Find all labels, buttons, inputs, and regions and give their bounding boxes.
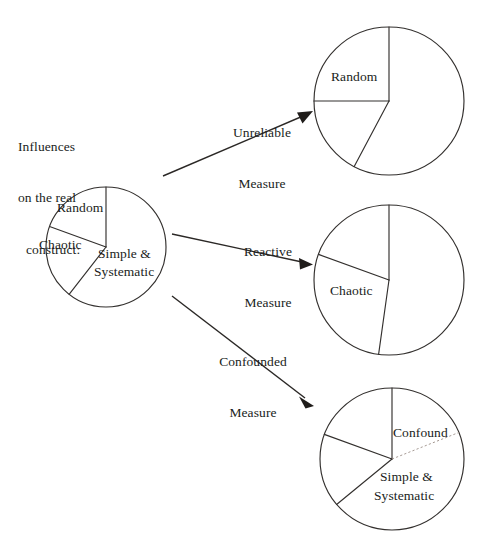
- unreliable-pie-boundary-lower-left: [354, 101, 389, 166]
- confounded-measure-label: Confounded Measure: [195, 318, 311, 456]
- reactive-pie-boundary-bottom: [379, 280, 389, 354]
- real-construct-label-simple: Simple &: [98, 245, 151, 262]
- confounded-pie-label-simple: Simple &: [380, 468, 433, 485]
- reactive-measure-pie: [314, 205, 464, 355]
- real-construct-label-chaotic: Chaotic: [39, 236, 82, 253]
- confounded-measure-pie: [320, 388, 464, 530]
- real-construct-label-random: Random: [57, 199, 103, 216]
- confounded-measure-label-line-1: Confounded: [195, 353, 311, 370]
- reactive-pie-label-chaotic: Chaotic: [330, 282, 373, 299]
- measurement-influences-diagram: Influences on the real construct: Random…: [0, 0, 478, 557]
- unreliable-pie-label-random: Random: [331, 68, 377, 85]
- real-construct-label-systematic: Systematic: [94, 263, 154, 280]
- unreliable-measure-label-line-1: Unreliable: [210, 124, 314, 141]
- unreliable-measure-label-line-2: Measure: [210, 175, 314, 192]
- reactive-measure-label-line-1: Reactive: [220, 243, 316, 260]
- confounded-pie-label-systematic: Systematic: [374, 487, 434, 504]
- confounded-pie-label-confound: Confound: [393, 424, 448, 441]
- unreliable-measure-pie: [314, 27, 464, 175]
- unreliable-measure-label: Unreliable Measure: [210, 89, 314, 227]
- reactive-pie-boundary-upper-left: [319, 254, 390, 280]
- reactive-measure-label-line-2: Measure: [220, 294, 316, 311]
- figure-caption-line-1: Influences: [18, 138, 128, 155]
- confounded-measure-label-line-2: Measure: [195, 404, 311, 421]
- confounded-pie-boundary-upper-left: [324, 434, 392, 459]
